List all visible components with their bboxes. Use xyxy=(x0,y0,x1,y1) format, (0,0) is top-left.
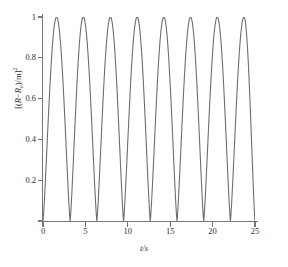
x-axis-tick-label: 15 xyxy=(160,227,180,236)
data-series-curve xyxy=(43,17,255,221)
y-axis-tick-label: 0.6 xyxy=(25,94,36,103)
y-axis-label-r: R xyxy=(13,98,23,103)
y-axis-tick xyxy=(38,180,42,181)
y-axis-tick xyxy=(38,16,42,17)
y-axis-label-exponent: 2 xyxy=(12,68,18,71)
x-axis-tick-label: 25 xyxy=(245,227,265,236)
y-axis-label-open: [( xyxy=(13,103,23,109)
y-axis-label: [(R−Re)/m]2 xyxy=(12,32,25,144)
y-axis-tick-label: 1 xyxy=(32,13,36,22)
y-axis-tick xyxy=(38,98,42,99)
y-axis-tick xyxy=(38,57,42,58)
x-axis-tick-label: 20 xyxy=(203,227,223,236)
x-axis-tick-label: 10 xyxy=(118,227,138,236)
y-axis-label-units: )/m] xyxy=(13,71,23,86)
y-axis-tick-label: 0.4 xyxy=(25,135,36,144)
y-axis-tick xyxy=(38,139,42,140)
chart-figure: 0.20.40.60.81 0510152025 t/s [(R−Re)/m]2 xyxy=(0,0,288,267)
y-axis-label-minus: − xyxy=(13,93,23,98)
x-axis-label-text: t/s xyxy=(140,243,148,253)
y-axis-tick xyxy=(38,220,42,221)
y-axis-label-re: R xyxy=(13,88,23,93)
y-axis-label-re-subscript: e xyxy=(18,85,24,88)
y-axis-tick-label-wrap: 1 xyxy=(0,13,36,22)
y-axis-tick-label: 0.8 xyxy=(25,53,36,62)
y-axis-tick-label: 0.2 xyxy=(25,176,36,185)
y-axis-tick-label-wrap: 0.2 xyxy=(0,176,36,185)
plot-area xyxy=(43,17,255,221)
x-axis-label: t/s xyxy=(0,243,288,253)
x-axis-tick-label: 5 xyxy=(75,227,95,236)
x-axis-tick-label: 0 xyxy=(33,227,53,236)
